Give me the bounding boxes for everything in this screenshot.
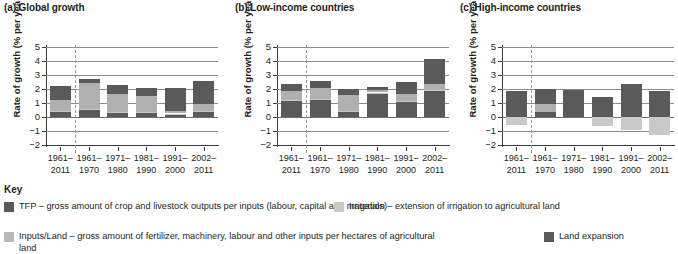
y-tick-mark (498, 145, 502, 146)
bar-segment-tfp (592, 97, 613, 117)
x-tick-mark (89, 147, 90, 151)
bars-a (46, 47, 218, 145)
x-tick-label: 2002–2011 (643, 153, 677, 176)
x-tick-mark (377, 147, 378, 151)
legend: Key TFP – gross amount of crop and lives… (4, 184, 674, 244)
bar-segment-land_expansion (50, 112, 71, 117)
bar-segment-tfp (310, 81, 331, 88)
x-tick-mark (406, 147, 407, 151)
bar-segment-irrigation (649, 117, 670, 135)
bar-segment-land_expansion (79, 109, 100, 117)
y-axis-label-a: Rate of growth (% per year) (11, 0, 22, 118)
bar-segment-land_expansion (367, 93, 388, 117)
x-tick-label: 2002–2011 (187, 153, 221, 176)
bar-segment-inputs_land (535, 104, 556, 111)
bar-c-1961–2011 (506, 47, 527, 145)
bar-segment-inputs_land (310, 88, 331, 100)
bar-segment-tfp (281, 84, 302, 92)
plot-area-a: −2−1012345 (46, 47, 218, 145)
x-tick-mark (146, 147, 147, 151)
bar-segment-land_expansion (396, 101, 417, 117)
bar-segment-irrigation (338, 111, 359, 112)
bar-segment-irrigation (281, 100, 302, 101)
x-tick-mark (631, 147, 632, 151)
bar-c-2002–2011 (649, 47, 670, 145)
bar-segment-irrigation (136, 112, 157, 113)
y-tick-label: 3 (266, 70, 271, 80)
panel-global-growth: (a) Global growth Rate of growth (% per … (0, 0, 226, 180)
bar-segment-inputs_land (136, 96, 157, 112)
bar-segment-irrigation (310, 99, 331, 100)
panel-low-income-countries: (b) Low-income countries Rate of growth … (231, 0, 457, 180)
bar-segment-tfp (50, 86, 71, 100)
y-tick-mark (42, 145, 46, 146)
bar-segment-irrigation (592, 117, 613, 126)
bar-segment-land_expansion (563, 113, 584, 117)
legend-swatch-irrigation (334, 202, 344, 212)
bar-c-1971–1980 (563, 47, 584, 145)
plot-area-c: −2−1012345 (502, 47, 674, 145)
x-tick-mark (291, 147, 292, 151)
legend-item-tfp: TFP – gross amount of crop and livestock… (4, 201, 387, 213)
x-axis-b (277, 145, 450, 146)
x-tick-mark (574, 147, 575, 151)
bar-segment-land_expansion (165, 114, 186, 117)
bar-segment-tfp (535, 89, 556, 104)
bar-segment-inputs_land (338, 95, 359, 111)
bar-b-1961–2011 (281, 47, 302, 145)
bar-segment-irrigation (50, 111, 71, 112)
y-tick-label: 2 (266, 84, 271, 94)
bar-segment-tfp (165, 88, 186, 110)
legend-label-inputs-land: Inputs/Land – gross amount of fertilizer… (19, 231, 449, 254)
y-tick-label: 1 (35, 98, 40, 108)
bar-a-1961–2011 (50, 47, 71, 145)
y-tick-label: 4 (35, 56, 40, 66)
bar-segment-irrigation (107, 112, 128, 113)
bar-a-1971–1980 (107, 47, 128, 145)
bar-segment-inputs_land (367, 90, 388, 93)
bar-segment-irrigation (193, 111, 214, 112)
bar-segment-inputs_land (107, 94, 128, 112)
y-tick-label: 2 (35, 84, 40, 94)
bar-b-1991–2000 (396, 47, 417, 145)
x-tick-mark (204, 147, 205, 151)
legend-item-irrigation: Irrigation – extension of irrigation to … (334, 201, 560, 213)
x-tick-labels-a: 1961–20111961–19701971–19801981–19901991… (46, 147, 218, 177)
legend-item-land-expansion: Land expansion (544, 231, 624, 243)
bar-segment-irrigation (506, 117, 527, 125)
bar-segment-tfp (563, 90, 584, 113)
x-tick-mark (60, 147, 61, 151)
plot-area-b: −2−1012345 (277, 47, 449, 145)
x-tick-mark (320, 147, 321, 151)
bar-c-1981–1990 (592, 47, 613, 145)
bar-b-1981–1990 (367, 47, 388, 145)
bar-segment-tfp (79, 79, 100, 83)
panel-title-c: (c) High-income countries (460, 2, 581, 13)
x-tick-mark (435, 147, 436, 151)
bar-segment-land_expansion (338, 111, 359, 117)
y-tick-label: 0 (491, 112, 496, 122)
y-tick-label: 4 (491, 56, 496, 66)
y-tick-label: −1 (29, 126, 40, 136)
x-tick-mark (349, 147, 350, 151)
y-tick-label: 0 (266, 112, 271, 122)
bar-segment-land_expansion (310, 100, 331, 117)
bar-segment-irrigation (621, 117, 642, 130)
y-tick-label: 5 (35, 42, 40, 52)
y-tick-label: 5 (491, 42, 496, 52)
bar-segment-tfp (424, 59, 445, 84)
bar-segment-tfp (649, 91, 670, 117)
bar-segment-inputs_land (424, 84, 445, 90)
legend-swatch-inputs-land (4, 232, 14, 242)
y-tick-label: 0 (35, 112, 40, 122)
y-tick-label: 3 (491, 70, 496, 80)
bar-segment-land_expansion (535, 112, 556, 117)
bars-c (502, 47, 674, 145)
x-tick-mark (545, 147, 546, 151)
y-tick-label: −1 (485, 126, 496, 136)
bar-segment-land_expansion (136, 113, 157, 117)
bar-segment-irrigation (79, 109, 100, 110)
bar-segment-tfp (107, 85, 128, 94)
y-tick-label: 3 (35, 70, 40, 80)
bar-segment-tfp (193, 81, 214, 104)
